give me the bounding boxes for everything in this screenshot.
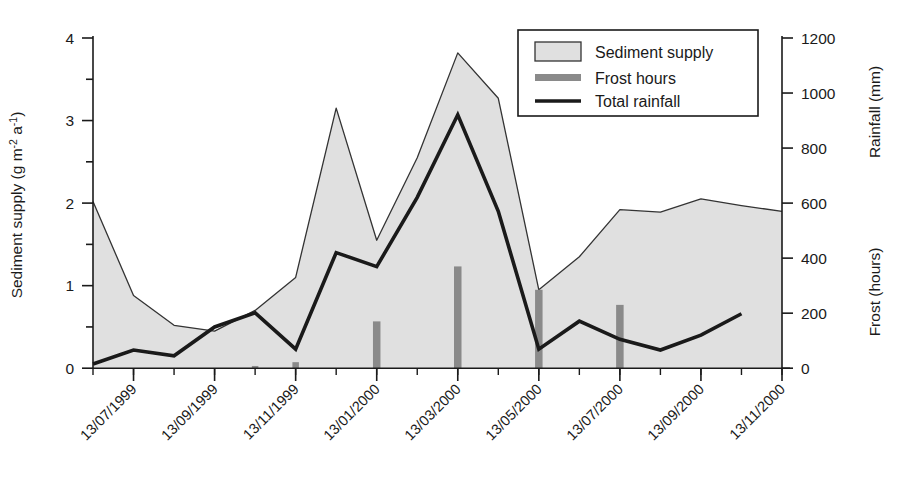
frost-hours-bar <box>292 362 299 368</box>
left-tick-label: 0 <box>65 360 74 377</box>
left-axis-title: Sediment supply (g m-2 a-1) <box>7 112 25 299</box>
frost-hours-bar <box>535 290 543 368</box>
bottom-tick-label: 13/11/1999 <box>240 381 302 443</box>
right-tick-label: 0 <box>801 360 810 377</box>
svg-text:Sediment supply (g m-2 a-1): Sediment supply (g m-2 a-1) <box>7 112 25 299</box>
legend-swatch-sediment <box>535 42 581 61</box>
left-tick-label: 3 <box>65 112 74 129</box>
legend: Sediment supplyFrost hoursTotal rainfall <box>518 30 758 116</box>
bottom-tick-label: 13/11/2000 <box>726 381 788 443</box>
left-axis-title-mid: a <box>8 126 25 139</box>
bottom-axis: 13/07/199913/09/199913/11/199913/01/2000… <box>77 368 790 443</box>
bottom-tick-label: 13/05/2000 <box>482 381 545 444</box>
left-tick-label: 2 <box>65 195 74 212</box>
right-axis-title-rainfall: Rainfall (mm) <box>866 66 883 158</box>
right-axis: 020040060080010001200 <box>782 30 836 377</box>
bottom-tick-label: 13/01/2000 <box>320 381 383 444</box>
right-tick-label: 800 <box>801 140 827 157</box>
left-axis: 01234 <box>65 30 93 377</box>
bottom-tick-label: 13/09/1999 <box>158 381 221 444</box>
left-axis-title-sup2: -1 <box>7 117 19 126</box>
right-tick-label: 200 <box>801 305 827 322</box>
legend-label: Total rainfall <box>595 93 680 110</box>
bottom-tick-label: 13/07/1999 <box>77 381 140 444</box>
frost-hours-bar <box>454 266 462 368</box>
left-tick-label: 4 <box>65 30 74 47</box>
legend-swatch-frost <box>535 74 581 81</box>
left-axis-title-end: ) <box>8 112 25 117</box>
bottom-tick-label: 13/09/2000 <box>644 381 707 444</box>
legend-label: Frost hours <box>595 70 676 87</box>
right-tick-label: 600 <box>801 195 827 212</box>
bottom-tick-label: 13/03/2000 <box>401 381 464 444</box>
sediment-supply-chart: 01234 020040060080010001200 13/07/199913… <box>0 0 898 484</box>
left-axis-title-sup1: -2 <box>7 139 19 148</box>
left-tick-label: 1 <box>65 277 74 294</box>
right-tick-label: 400 <box>801 250 827 267</box>
legend-label: Sediment supply <box>595 44 713 61</box>
chart-figure: 01234 020040060080010001200 13/07/199913… <box>0 0 898 484</box>
left-axis-title-main: Sediment supply (g m <box>8 148 25 298</box>
right-tick-label: 1200 <box>801 30 836 47</box>
right-tick-label: 1000 <box>801 85 836 102</box>
frost-hours-bar <box>373 321 381 368</box>
bottom-tick-label: 13/07/2000 <box>563 381 626 444</box>
right-axis-title-frost: Frost (hours) <box>866 248 883 337</box>
